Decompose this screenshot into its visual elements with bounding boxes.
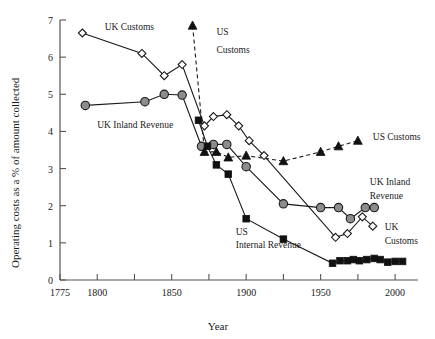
ann-uk-customs-top: UK Customs xyxy=(105,22,155,32)
datapoint-us-internal-revenue-0 xyxy=(195,117,202,124)
y-tick-label-1: 1 xyxy=(48,238,53,249)
datapoint-uk-inland-revenue-3 xyxy=(178,91,186,99)
datapoint-us-internal-revenue-10 xyxy=(356,257,363,264)
datapoint-us-internal-revenue-11 xyxy=(364,256,371,263)
operating-costs-line-chart: Operating costs as a % of amount collect… xyxy=(0,0,435,339)
y-tick-label-3: 3 xyxy=(48,164,53,175)
datapoint-us-internal-revenue-14 xyxy=(384,259,391,266)
datapoint-us-internal-revenue-13 xyxy=(377,256,384,263)
ann-us-customs-top-2: Customs xyxy=(216,45,250,55)
ann-uk-inland-revenue-right-2: Revenue xyxy=(370,191,403,201)
datapoint-uk-inland-revenue-6 xyxy=(223,140,231,148)
datapoint-uk-inland-revenue-8 xyxy=(279,200,287,208)
x-tick-label-1800: 1800 xyxy=(87,287,107,298)
y-axis-label: Operating costs as a % of amount collect… xyxy=(9,77,21,268)
x-tick-label-1950: 1950 xyxy=(311,287,331,298)
x-tick-label-1900: 1900 xyxy=(236,287,256,298)
x-tick-label-1775: 1775 xyxy=(50,287,70,298)
y-tick-label-5: 5 xyxy=(48,89,53,100)
datapoint-us-internal-revenue-4 xyxy=(243,215,250,222)
datapoint-us-internal-revenue-7 xyxy=(337,257,344,264)
ann-us-customs-top-1: US xyxy=(216,27,228,37)
ann-uk-customs-right-1: UK xyxy=(385,222,399,232)
datapoint-us-internal-revenue-15 xyxy=(392,258,399,265)
y-tick-label-4: 4 xyxy=(48,126,53,137)
datapoint-uk-inland-revenue-1 xyxy=(141,98,149,106)
ann-us-internal-revenue-2: Internal Revenue xyxy=(236,240,301,250)
x-tick-label-1850: 1850 xyxy=(162,287,182,298)
y-tick-label-6: 6 xyxy=(48,52,53,63)
datapoint-us-internal-revenue-16 xyxy=(399,258,406,265)
datapoint-us-internal-revenue-1 xyxy=(204,143,211,150)
ann-uk-inland-revenue-left: UK Inland Revenue xyxy=(97,120,173,130)
ann-us-customs-right: US Customs xyxy=(373,132,421,142)
datapoint-uk-inland-revenue-13 xyxy=(370,203,378,211)
datapoint-uk-inland-revenue-12 xyxy=(361,203,369,211)
datapoint-uk-inland-revenue-7 xyxy=(242,163,250,171)
datapoint-us-internal-revenue-3 xyxy=(225,171,232,178)
y-tick-label-2: 2 xyxy=(48,201,53,212)
x-axis-label: Year xyxy=(208,320,229,332)
ann-uk-customs-right-2: Customs xyxy=(385,236,419,246)
datapoint-us-internal-revenue-6 xyxy=(329,260,336,267)
ann-us-internal-revenue-1: US xyxy=(236,227,248,237)
ann-uk-inland-revenue-right-1: UK Inland xyxy=(370,177,411,187)
datapoint-uk-inland-revenue-9 xyxy=(316,203,324,211)
datapoint-uk-inland-revenue-0 xyxy=(81,101,89,109)
datapoint-uk-inland-revenue-10 xyxy=(334,203,342,211)
y-tick-label-7: 7 xyxy=(48,15,53,26)
chart-container: Operating costs as a % of amount collect… xyxy=(0,0,435,339)
datapoint-us-internal-revenue-2 xyxy=(213,162,220,169)
y-tick-label-0: 0 xyxy=(48,275,53,286)
datapoint-uk-inland-revenue-2 xyxy=(160,90,168,98)
x-tick-label-2000: 2000 xyxy=(385,287,405,298)
datapoint-uk-inland-revenue-11 xyxy=(346,215,354,223)
